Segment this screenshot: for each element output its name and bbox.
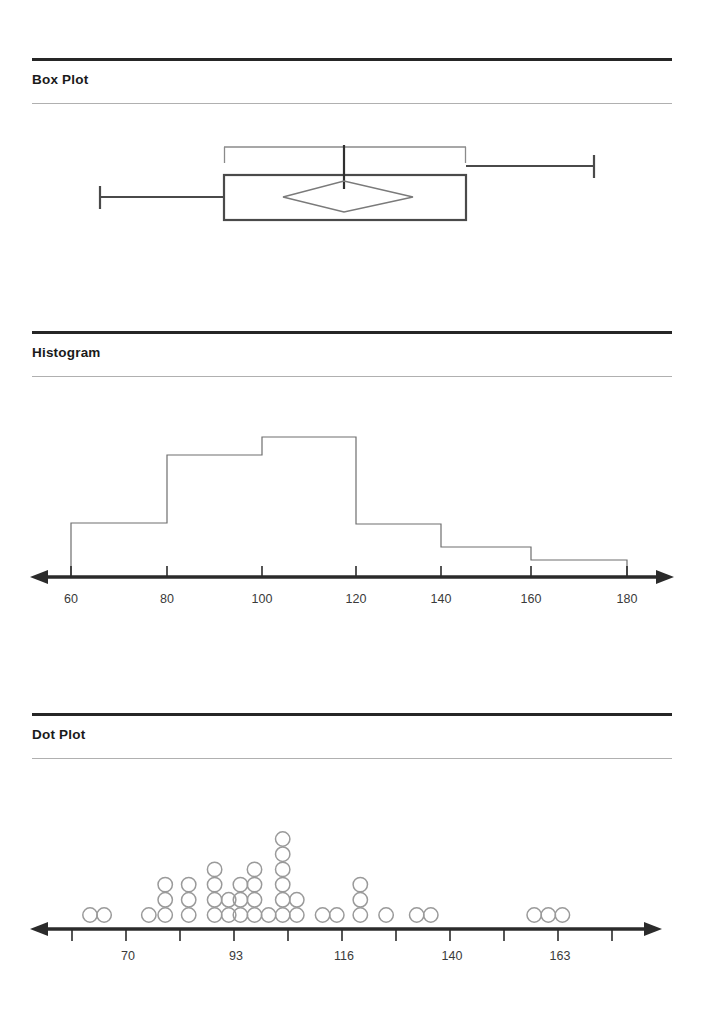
dot-plot-dot [83,908,97,922]
dot-plot-dot [97,908,111,922]
histogram-tick-label: 180 [617,592,638,606]
dot-plot-dot [353,893,367,907]
dot-plot-dot [222,908,236,922]
dot-plot-dot [276,862,290,876]
histogram-tick-label: 140 [431,592,452,606]
dot-plot-dot [276,908,290,922]
dot-plot-dot [290,908,304,922]
histogram-tick-label: 160 [521,592,542,606]
dot-plot-dot [222,893,236,907]
box-plot-iqr-box [224,175,466,220]
dot-plot-dot [276,893,290,907]
dot-plot-axis [30,922,662,941]
section-top-rule [32,331,672,334]
histogram-bar-outline [71,437,627,577]
dot-plot-dot [182,908,196,922]
dot-plot-tick-label: 70 [121,949,135,963]
dot-plot-dot [158,877,172,891]
dot-plot-dot [158,908,172,922]
dot-plot-dot [207,862,221,876]
dot-plot-dot [424,908,438,922]
section-title-dot-plot: Dot Plot [32,727,85,742]
histogram-bars [71,437,627,577]
dot-plot-dot [410,908,424,922]
box-plot-upper-whisker [466,155,595,178]
section-title-histogram: Histogram [32,345,101,360]
dot-plot-dot [247,877,261,891]
dot-plot-dot [261,908,275,922]
dot-plot-dot [527,908,541,922]
dot-plot-dot [233,893,247,907]
section-title-box-plot: Box Plot [32,72,88,87]
histogram-axis [30,566,674,584]
dot-plot-tick-labels: 70 93 116 140 163 [121,949,570,963]
dot-plot-tick-label: 140 [442,949,463,963]
dot-plot-dot [541,908,555,922]
dot-plot-tick-label: 116 [334,949,354,963]
dot-plot-dot [233,908,247,922]
dot-plot-dot [182,893,196,907]
dot-plot-figure: 70 93 116 140 163 [30,832,662,963]
histogram-tick-labels: 60 80 100 120 140 160 180 [64,592,637,606]
dot-plot-dot [379,908,393,922]
dot-plot-dot [142,908,156,922]
dot-plot-tick-label: 163 [550,949,571,963]
dot-plot-stacks [83,832,570,922]
plots-canvas: 60 80 100 120 140 160 180 70 93 [0,0,704,1016]
section-top-rule [32,713,672,716]
section-bottom-rule [32,103,672,104]
dot-plot-dot [353,908,367,922]
dot-plot-dot [247,893,261,907]
dot-plot-tick-label: 93 [229,949,243,963]
dot-plot-dot [276,877,290,891]
dot-plot-dot [247,908,261,922]
dot-plot-dot [158,893,172,907]
dot-plot-dot [555,908,569,922]
dot-plot-dot [290,893,304,907]
histogram-tick-label: 120 [346,592,367,606]
dot-plot-dot [233,877,247,891]
section-top-rule [32,58,672,61]
dot-plot-dot [353,877,367,891]
statistics-report-page: Box Plot [0,0,704,1016]
dot-plot-dot [330,908,344,922]
dot-plot-dot [276,832,290,846]
histogram-tick-label: 80 [160,592,174,606]
histogram-tick-label: 60 [64,592,78,606]
section-bottom-rule [32,758,672,759]
section-bottom-rule [32,376,672,377]
histogram-figure: 60 80 100 120 140 160 180 [30,437,674,606]
dot-plot-dot [247,862,261,876]
box-plot-upper-bracket [224,147,466,163]
box-plot-figure [99,145,595,220]
histogram-tick-label: 100 [252,592,273,606]
dot-plot-dot [207,908,221,922]
dot-plot-dot [207,877,221,891]
dot-plot-dot [182,877,196,891]
dot-plot-dot [276,847,290,861]
box-plot-mean-diamond [283,181,413,212]
dot-plot-dot [207,893,221,907]
dot-plot-dot [315,908,329,922]
box-plot-lower-whisker [99,186,224,209]
